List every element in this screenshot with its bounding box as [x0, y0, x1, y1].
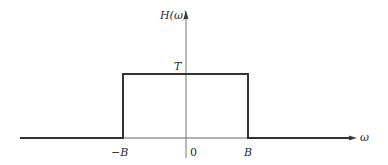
y-axis-label: H(ω): [159, 9, 187, 22]
frequency-response-diagram: H(ω) ω T −B 0 B: [0, 0, 388, 165]
level-label: T: [174, 60, 183, 73]
x-axis-label: ω: [360, 131, 369, 144]
tick-label-b: B: [243, 146, 252, 159]
tick-label-neg-b: −B: [111, 146, 128, 159]
tick-label-zero: 0: [190, 146, 197, 159]
